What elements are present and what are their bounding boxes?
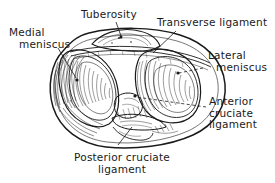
label-lateral-meniscus-line1: Lateral [208, 50, 267, 62]
label-transverse-ligament-line1: Transverse ligament [157, 17, 267, 29]
medial-meniscus-hatching [61, 59, 110, 109]
label-posterior-cruciate-ligament: Posterior cruciate ligament [62, 152, 182, 175]
dot-medial-meniscus [75, 78, 78, 81]
lateral-meniscus-hatching [137, 60, 191, 112]
label-posterior-cruciate-line1: Posterior cruciate [62, 152, 182, 164]
cruciate-ligament-stumps [112, 93, 166, 140]
dot-anterior-cruciate [133, 94, 136, 97]
dot-tuberosity [120, 36, 123, 39]
label-tuberosity: Tuberosity [81, 9, 137, 21]
label-lateral-meniscus-line2: meniscus [208, 62, 267, 74]
dot-lateral-meniscus [176, 71, 179, 74]
label-medial-meniscus-line1: Medial [9, 27, 70, 39]
anatomical-figure: Tuberosity Transverse ligament Medial me… [0, 0, 275, 183]
label-tuberosity-line1: Tuberosity [81, 9, 137, 21]
label-posterior-cruciate-line2: ligament [62, 164, 182, 176]
label-anterior-cruciate-line1: Anterior [209, 96, 257, 108]
label-anterior-cruciate-line3: ligament [209, 119, 257, 131]
leader-lines [58, 22, 206, 145]
label-transverse-ligament: Transverse ligament [157, 17, 267, 29]
leader-posterior-cruciate [118, 127, 132, 145]
label-medial-meniscus-line2: meniscus [9, 39, 70, 51]
label-anterior-cruciate-ligament: Anterior cruciate ligament [209, 96, 257, 131]
label-lateral-meniscus: Lateral meniscus [208, 50, 267, 73]
label-medial-meniscus: Medial meniscus [9, 27, 70, 50]
